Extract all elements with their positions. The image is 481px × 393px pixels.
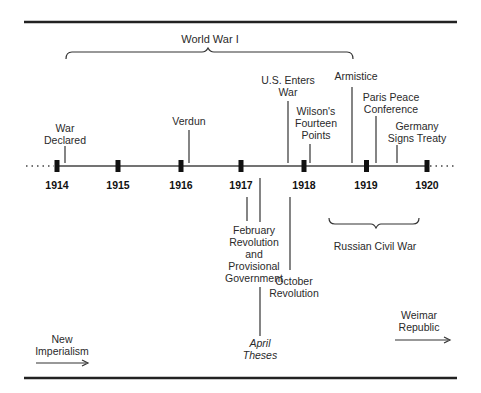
world-war-i-bracket [66,48,353,59]
event-us-enters-war: U.S. EntersWar [259,74,317,98]
event-germany-signs-treaty: GermanySigns Treaty [384,120,450,144]
year-1914: 1914 [37,179,77,191]
event-verdun: Verdun [164,115,214,127]
world-war-i-label: World War I [170,33,250,45]
year-1915: 1915 [98,179,138,191]
russian-civil-war-label: Russian Civil War [330,240,420,252]
event-october-revolution: OctoberRevolution [268,275,320,299]
event-paris-peace-conference: Paris PeaceConference [361,91,421,115]
event-war-declared: WarDeclared [40,122,90,146]
tick-1918 [302,160,307,172]
event-april-theses: AprilTheses [238,337,282,361]
year-1918: 1918 [284,179,324,191]
russian-civil-war-bracket [329,218,419,228]
tick-1915 [116,160,121,172]
event-wilsons-fourteen-points: Wilson'sFourteenPoints [290,105,342,141]
era-weimar-republic: WeimarRepublic [394,309,444,333]
tick-1919 [364,160,369,172]
year-1920: 1920 [407,179,447,191]
tick-1914 [55,160,60,172]
year-1919: 1919 [346,179,386,191]
tick-1916 [179,160,184,172]
event-armistice: Armistice [328,70,384,82]
era-new-imperialism: NewImperialism [32,333,92,357]
year-1916: 1916 [161,179,201,191]
tick-1917 [239,160,244,172]
year-1917: 1917 [221,179,261,191]
tick-1920 [425,160,430,172]
